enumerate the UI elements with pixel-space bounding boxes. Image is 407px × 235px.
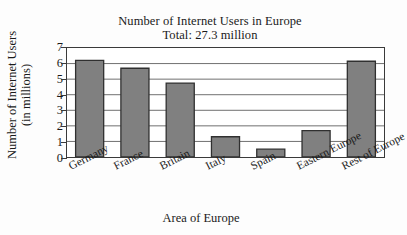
x-axis-title: Area of Europe [0,211,402,226]
y-axis-title-line2: (in millions) [19,31,33,159]
chart-title: Number of Internet Users in Europe [60,14,360,28]
chart-title-block: Number of Internet Users in Europe Total… [60,14,360,42]
chart-subtitle: Total: 27.3 million [60,28,360,42]
bar [166,83,194,157]
y-tick-mark [61,158,67,159]
bar [121,68,149,157]
y-axis-title-line1: Number of Internet Users [5,31,19,159]
bar [76,60,104,157]
